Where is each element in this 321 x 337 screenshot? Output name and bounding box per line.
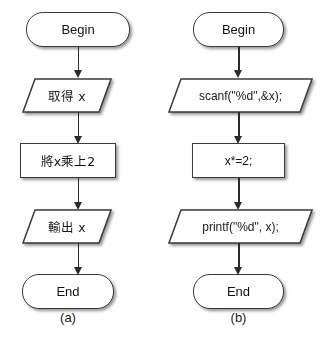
- parallelogram-shape: [22, 209, 112, 244]
- node-a-output: 輸出 x: [22, 209, 112, 244]
- node-b-output: printf("%d", x);: [168, 209, 313, 244]
- panel-b-caption: (b): [196, 310, 281, 325]
- flowchart-figure: Begin 取得 x 將x乘上2 輸出 x: [0, 0, 321, 337]
- node-b-end-label: End: [227, 284, 250, 299]
- connector-a-process-to-output: [73, 178, 84, 210]
- node-a-end: End: [22, 274, 114, 309]
- connector-b-begin-to-input: [233, 47, 244, 78]
- connector-a-input-to-process: [73, 112, 84, 144]
- node-b-begin: Begin: [193, 12, 284, 47]
- connector-a-output-to-end: [73, 243, 84, 275]
- parallelogram-shape: [168, 209, 313, 244]
- node-b-process: x*=2;: [192, 143, 285, 178]
- node-b-process-label: x*=2;: [225, 154, 253, 168]
- node-a-process-label: 將x乘上2: [41, 151, 95, 170]
- node-b-end: End: [193, 274, 284, 309]
- node-b-input: scanf("%d",&x);: [168, 78, 313, 113]
- connector-a-begin-to-input: [73, 47, 84, 78]
- node-a-process: 將x乘上2: [20, 143, 116, 178]
- node-a-begin: Begin: [26, 12, 130, 47]
- panel-a-caption: (a): [26, 310, 110, 325]
- connector-b-output-to-end: [233, 243, 244, 275]
- node-b-begin-label: Begin: [222, 22, 255, 37]
- connector-b-process-to-output: [233, 178, 244, 210]
- node-a-end-label: End: [56, 284, 79, 299]
- node-a-input: 取得 x: [22, 78, 112, 113]
- connector-b-input-to-process: [233, 112, 244, 144]
- flowchart-panel-a: Begin 取得 x 將x乘上2 輸出 x: [0, 0, 160, 337]
- parallelogram-shape: [22, 78, 112, 113]
- parallelogram-shape: [168, 78, 313, 113]
- flowchart-panel-b: Begin scanf("%d",&x); x*=2;: [160, 0, 321, 337]
- node-a-begin-label: Begin: [61, 22, 94, 37]
